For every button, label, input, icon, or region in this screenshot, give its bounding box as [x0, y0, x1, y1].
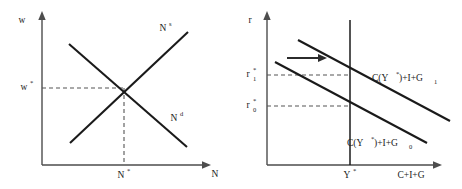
shift-arrow — [287, 54, 327, 62]
ad-initial-label-subscript: 0 — [409, 143, 412, 150]
potential-output-tick: Y * — [344, 167, 357, 180]
ad-initial-label-main: C(Y — [347, 138, 364, 149]
labor-demand-label-superscript: d — [180, 110, 184, 117]
equilibrium-wage-tick: w * — [21, 79, 34, 92]
y-axis-arrowhead — [38, 11, 45, 20]
x-axis-arrowhead — [202, 161, 211, 168]
labor-market-panel: w N w * N * N s N d — [0, 0, 231, 189]
equilibrium-wage-superscript: * — [30, 79, 33, 86]
y-axis-label-labor: w — [19, 15, 26, 25]
economics-figure: w N w * N * N s N d — [0, 0, 462, 189]
equilibrium-employment-superscript: * — [127, 167, 130, 174]
rate-high-base: r — [246, 69, 250, 79]
goods-market-chart: r C+I+G r 1 * r 0 * Y * C(Y * — [231, 0, 462, 189]
rate-high-tick: r 1 * — [246, 66, 256, 82]
labor-demand-label: N d — [171, 110, 184, 123]
potential-output-base: Y — [344, 170, 351, 180]
labor-demand-curve — [69, 44, 187, 147]
labor-supply-label: N s — [160, 20, 172, 33]
x-axis-label-goods: C+I+G — [397, 170, 424, 180]
equilibrium-wage-base: w — [21, 82, 28, 92]
labor-supply-label-base: N — [160, 23, 167, 33]
ad-shifted-label-subscript: 1 — [434, 78, 437, 85]
labor-demand-label-base: N — [171, 113, 178, 123]
labor-market-chart: w N w * N * N s N d — [0, 0, 231, 189]
aggregate-demand-initial-label: C(Y * )+I+G 0 — [347, 135, 412, 151]
rate-low-subscript: 0 — [253, 106, 256, 113]
rate-high-subscript: 1 — [253, 75, 256, 82]
y-axis-goods — [263, 11, 270, 165]
equilibrium-employment-base: N — [118, 170, 125, 180]
rate-low-superscript: * — [253, 97, 256, 104]
rate-low-base: r — [246, 100, 250, 110]
ad-initial-label-tail: )+I+G — [374, 138, 398, 149]
ad-shifted-label-main: C(Y — [372, 73, 389, 84]
y-axis-arrowhead — [263, 11, 270, 20]
x-axis-arrowhead — [433, 161, 442, 168]
y-axis-label-goods: r — [248, 15, 252, 25]
labor-supply-label-superscript: s — [169, 20, 172, 27]
aggregate-demand-shifted-label: C(Y * )+I+G 1 — [372, 70, 437, 86]
goods-market-panel: r C+I+G r 1 * r 0 * Y * C(Y * — [231, 0, 462, 189]
equilibrium-employment-tick: N * — [118, 167, 131, 180]
rate-low-tick: r 0 * — [246, 97, 256, 113]
x-axis-label-labor: N — [212, 169, 219, 179]
rate-high-superscript: * — [253, 66, 256, 73]
ad-shifted-label-tail: )+I+G — [399, 73, 423, 84]
potential-output-superscript: * — [353, 167, 356, 174]
